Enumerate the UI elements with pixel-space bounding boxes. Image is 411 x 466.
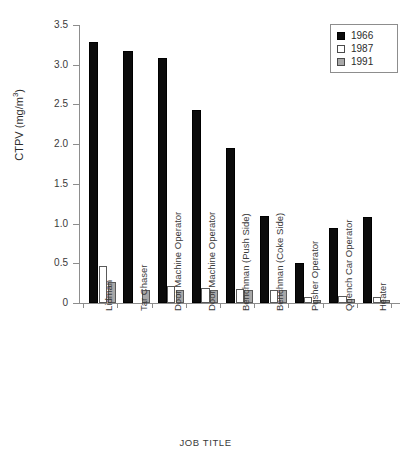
- bar-group: [123, 25, 150, 303]
- x-axis-category-label: Benchman (Push Side): [241, 213, 251, 311]
- bar-1966: [260, 216, 269, 303]
- bar-group: [89, 25, 116, 303]
- x-axis-category-label: Heater: [378, 282, 388, 311]
- x-axis-category-label: Lidman: [104, 280, 114, 311]
- x-axis-tick: [152, 303, 153, 308]
- y-axis-tick-label: 0.5: [40, 258, 68, 268]
- x-axis-tick: [288, 303, 289, 308]
- y-axis-title: CTPV (mg/m3): [11, 25, 25, 225]
- bar-1966: [158, 58, 167, 303]
- y-axis-tick-label: 3.0: [40, 60, 68, 70]
- legend-item: 1987: [337, 42, 392, 55]
- bar-1966: [226, 148, 235, 303]
- x-axis-tick: [254, 303, 255, 308]
- y-axis-tick-label: 1.5: [40, 179, 68, 189]
- y-axis-title-main: CTPV (mg/m: [13, 97, 25, 161]
- x-axis-category-label: Pusher Operator: [310, 241, 320, 311]
- y-axis-title-exponent: 3: [11, 93, 20, 97]
- y-axis-tick-label: 1.0: [40, 219, 68, 229]
- bar-1966: [123, 51, 132, 303]
- legend-label: 1966: [351, 31, 373, 41]
- x-axis-category-label: Door Machine Operator: [173, 212, 183, 311]
- x-axis-category-label: Door Machine Operator: [207, 212, 217, 311]
- legend-item: 1991: [337, 55, 392, 68]
- filled-gray-square-icon: [337, 58, 345, 66]
- legend: 1966 1987 1991: [330, 24, 398, 73]
- legend-item: 1966: [337, 29, 392, 42]
- filled-black-square-icon: [337, 32, 345, 40]
- y-axis-tick-label: 2.0: [40, 139, 68, 149]
- bar-1966: [295, 263, 304, 303]
- y-axis-title-tail: ): [13, 89, 25, 93]
- y-axis-tick-label: 2.5: [40, 99, 68, 109]
- x-axis-tick: [357, 303, 358, 308]
- bar-1966: [329, 228, 338, 303]
- x-axis-category-label: Tar Chaser: [139, 265, 149, 311]
- y-axis-tick: [73, 303, 79, 304]
- x-axis-tick: [323, 303, 324, 308]
- legend-label: 1987: [351, 44, 373, 54]
- bar-1966: [192, 110, 201, 303]
- x-axis-tick: [186, 303, 187, 308]
- legend-label: 1991: [351, 57, 373, 67]
- bar-1966: [89, 42, 98, 303]
- y-axis-tick-label: 3.5: [40, 20, 68, 30]
- x-axis-tick: [83, 303, 84, 308]
- chart-figure: CTPV (mg/m3) 00.51.01.52.02.53.03.5 Lidm…: [0, 0, 411, 466]
- x-axis-tick: [391, 303, 392, 308]
- empty-white-square-icon: [337, 45, 345, 53]
- y-axis-tick-label: 0: [40, 298, 68, 308]
- bar-1966: [363, 217, 372, 303]
- x-axis-category-label: Quench Car Operator: [344, 220, 354, 311]
- x-axis-tick: [117, 303, 118, 308]
- x-axis-category-label: Benchman (Coke Side): [275, 213, 285, 311]
- x-axis-tick: [220, 303, 221, 308]
- x-axis-title: JOB TITLE: [0, 437, 411, 448]
